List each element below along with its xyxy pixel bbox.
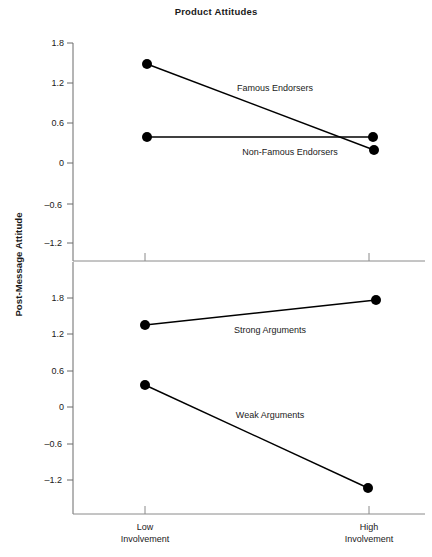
series-weak-arguments [140,380,373,493]
weak-arguments-point-low [140,380,150,390]
famous-endorsers-point-high [369,145,379,155]
weak-arguments-line [145,385,368,488]
non-famous-endorsers-point-low [142,132,152,142]
famous-endorsers-point-low [142,59,152,69]
weak-arguments-point-high [363,483,373,493]
chart-figure: Product Attitudes Post-Message Attitude … [0,0,432,557]
strong-arguments-point-low [140,320,150,330]
series-famous-endorsers [142,59,379,155]
non-famous-endorsers-point-high [368,132,378,142]
chart-canvas [0,0,432,557]
strong-arguments-line [145,300,376,325]
series-non-famous-endorsers [142,132,378,142]
strong-arguments-point-high [371,295,381,305]
series-strong-arguments [140,295,381,330]
